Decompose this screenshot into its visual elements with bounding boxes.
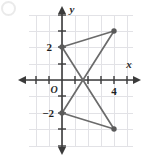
- coordinate-plane: y x O 2 −2 4: [0, 0, 147, 159]
- x-axis-arrow-right: [133, 76, 141, 84]
- x-tick-label-4: 4: [111, 85, 117, 97]
- x-axis-arrow-left: [18, 76, 26, 84]
- y-axis-arrow-down: [58, 147, 66, 155]
- y-axis-label: y: [68, 3, 75, 15]
- x-axis-label: x: [125, 58, 132, 70]
- vertex-point: [111, 28, 116, 33]
- vertex-point: [59, 110, 64, 115]
- vertex-point: [59, 44, 64, 49]
- y-axis-arrow-up: [58, 6, 66, 14]
- origin-label: O: [50, 84, 57, 95]
- y-tick-label-2: 2: [47, 41, 53, 53]
- vertex-point: [111, 126, 116, 131]
- y-tick-label-negative-2: −2: [42, 107, 54, 119]
- graph-screenshot: y x O 2 −2 4: [0, 0, 147, 159]
